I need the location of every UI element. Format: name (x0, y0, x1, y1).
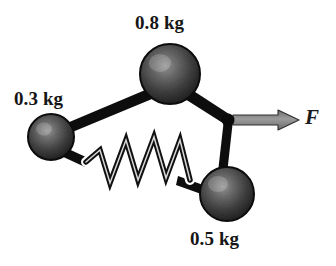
mass-group (28, 44, 254, 221)
force-arrow (233, 110, 299, 130)
mass-label-0.5kg: 0.5 kg (190, 228, 239, 250)
mass-0.8kg (140, 44, 200, 104)
mass-0.8kg-highlight (149, 54, 171, 72)
diagram-canvas (0, 0, 336, 266)
mass-0.5kg (200, 167, 254, 221)
spring-0.3kg-to-0.5kg (86, 137, 190, 183)
force-arrow-shape (233, 110, 299, 130)
rod-junction-to-0.5kg (218, 119, 233, 174)
mass-0.5kg-highlight (208, 176, 228, 192)
physics-diagram: 0.3 kg 0.8 kg 0.5 kg F (0, 0, 336, 266)
mass-label-0.3kg: 0.3 kg (14, 88, 63, 110)
force-label: F (305, 105, 319, 130)
rod-0.3kg-to-0.8kg (67, 88, 152, 133)
mass-0.3kg (28, 114, 74, 160)
junction-node (222, 114, 235, 127)
mass-label-0.8kg: 0.8 kg (135, 12, 184, 34)
mass-0.3kg-highlight (36, 123, 52, 136)
